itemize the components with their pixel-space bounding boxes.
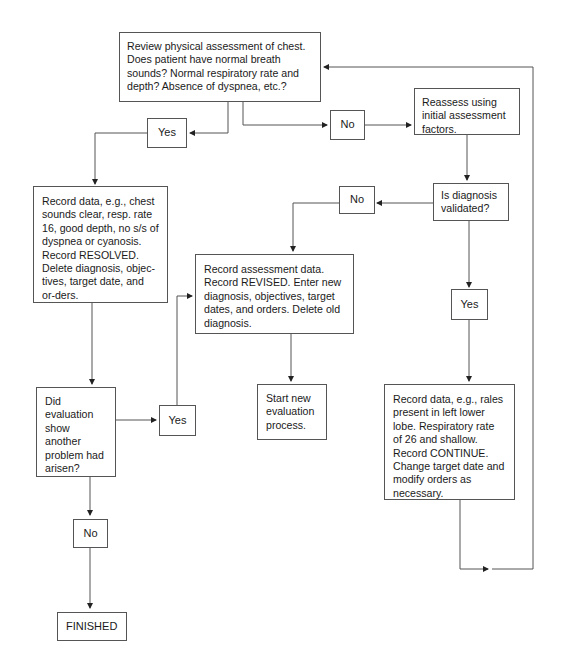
node-diagnosis-validated: Is diagnosis validated?: [433, 183, 509, 221]
node-record-continue: Record data, e.g., rales present in left…: [384, 384, 515, 500]
node-did-evaluation: Did evaluation show another problem had …: [36, 387, 116, 477]
node-yes-right: Yes: [451, 289, 488, 320]
edge-no-revised: [293, 203, 339, 251]
edge-yes-resolved: [95, 133, 147, 184]
node-reassess: Reassess using initial assessment factor…: [414, 88, 520, 135]
node-yes-mid: Yes: [159, 405, 196, 436]
edge-continue-loop: [460, 500, 488, 569]
edge-review-yes: [190, 102, 228, 133]
node-finished: FINISHED: [57, 612, 127, 641]
node-no-mid: No: [339, 186, 375, 214]
node-record-resolved: Record data, e.g., chest sounds clear, r…: [33, 186, 168, 303]
node-start-new: Start new evaluation process.: [257, 384, 327, 440]
node-review-assessment: Review physical assessment of chest. Doe…: [119, 32, 321, 102]
edge-review-no: [243, 102, 327, 125]
node-no-top: No: [330, 110, 365, 140]
edge-yes-revised: [177, 296, 192, 405]
node-yes-top: Yes: [147, 118, 187, 148]
node-no-bottom: No: [73, 519, 108, 548]
node-record-revised: Record assessment data. Record REVISED. …: [195, 254, 354, 334]
